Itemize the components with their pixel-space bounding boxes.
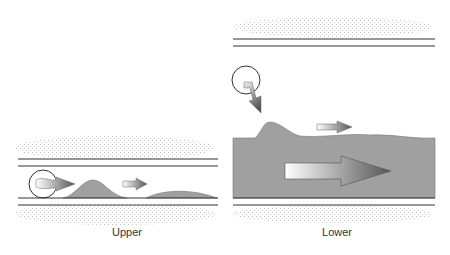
lower-surface-arrow-icon — [317, 121, 352, 133]
lower-panel — [232, 17, 435, 223]
lower-top-stipple — [233, 17, 433, 37]
upper-bottom-stipple — [15, 203, 215, 225]
lower-bottom-stipple — [233, 205, 433, 223]
upper-flow-arrow-icon — [36, 177, 75, 191]
lower-source-circle — [232, 66, 260, 94]
upper-sediment-dune — [63, 180, 127, 198]
lower-flow-body — [233, 122, 435, 198]
upper-top-stipple — [15, 136, 215, 160]
lower-label: Lower — [287, 226, 387, 238]
diagram-canvas — [0, 0, 450, 255]
upper-panel — [15, 136, 218, 225]
upper-migration-arrow-icon — [123, 178, 147, 190]
upper-sediment-low — [146, 191, 217, 198]
upper-label: Upper — [77, 226, 177, 238]
